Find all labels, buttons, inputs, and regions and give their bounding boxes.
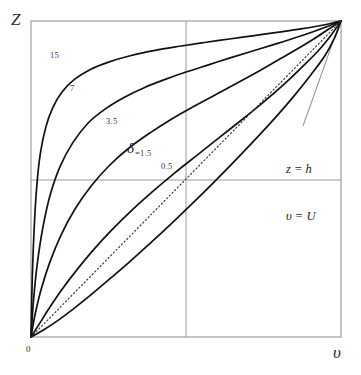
curve-label-3-5: 3.5 — [106, 117, 118, 126]
curve-label-0-5: 0.5 — [161, 162, 173, 171]
delta-value: =1.5 — [135, 149, 152, 158]
boundary-condition-annotation: z = h υ = U — [286, 131, 315, 256]
annotation-line-z-equals-h: z = h — [286, 162, 315, 178]
origin-tick-label: 0 — [26, 345, 31, 354]
curve-label-15: 15 — [50, 51, 59, 60]
figure-container: Z υ 0 15 7 3.5 0.5 δ =1.5 z = h υ = U — [0, 0, 361, 375]
delta-symbol: δ — [127, 141, 134, 156]
y-axis-label: Z — [11, 11, 20, 28]
curve-label-delta-1-5: δ =1.5 — [127, 141, 152, 156]
curve-label-7: 7 — [70, 84, 75, 93]
annotation-line-v-equals-u: υ = U — [286, 209, 315, 225]
x-axis-label: υ — [333, 344, 341, 361]
